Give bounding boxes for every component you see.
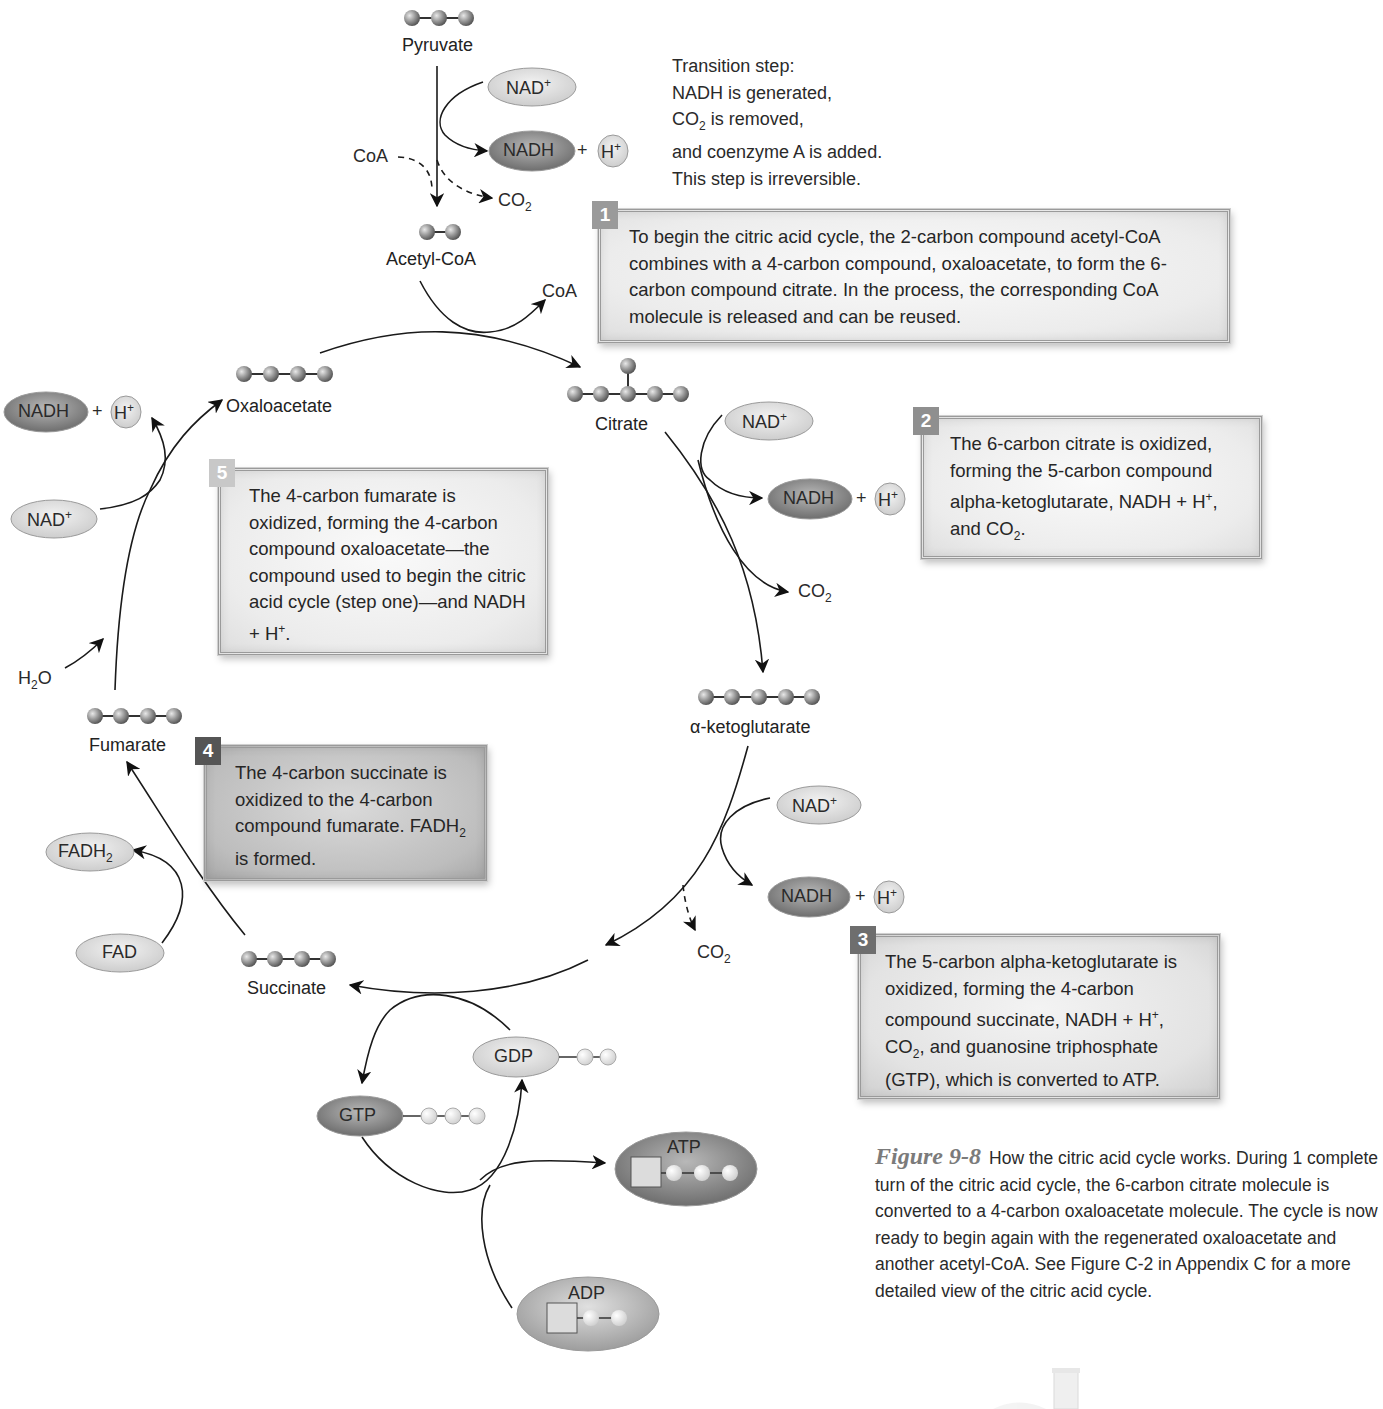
gdp-label: GDP — [494, 1046, 533, 1067]
alpha-ketoglutarate-label: α-ketoglutarate — [690, 717, 810, 738]
coa-released-label: CoA — [542, 281, 577, 302]
akg-molecule-icon — [698, 689, 820, 705]
arrow-co2-out-step2 — [698, 460, 788, 592]
acetylcoa-molecule-icon — [419, 224, 461, 240]
arrow-h2o-in — [65, 639, 103, 668]
fumarate-molecule-icon — [87, 708, 182, 724]
arrow-oxaloacetate-to-citrate — [320, 332, 580, 367]
step-4-box: The 4-carbon succinate is oxidized to th… — [204, 745, 487, 881]
gtp-phosphate-chain-icon — [403, 1108, 485, 1124]
oxaloacetate-label: Oxaloacetate — [226, 396, 332, 417]
h-plus-label-step3: H+ — [877, 886, 897, 909]
plus-sign: + — [856, 488, 867, 509]
arrow-to-atp — [480, 1161, 605, 1180]
citrate-label: Citrate — [595, 414, 648, 435]
step-1-box: To begin the citric acid cycle, the 2-ca… — [598, 209, 1230, 343]
step-3-box: The 5-carbon alpha-ketoglutarate is oxid… — [858, 934, 1220, 1099]
citrate-molecule-icon — [567, 358, 689, 402]
nadh-label-transition: NADH — [503, 140, 554, 161]
succinate-molecule-icon — [241, 951, 336, 967]
atp-label: ATP — [667, 1137, 701, 1158]
figure-caption: Figure 9-8How the citric acid cycle work… — [875, 1143, 1380, 1304]
plus-sign: + — [92, 401, 103, 422]
adp-label: ADP — [568, 1283, 605, 1304]
h2o-label: H2O — [18, 668, 52, 692]
gdp-phosphate-chain-icon — [559, 1049, 616, 1065]
transition-line-2: NADH is generated, — [672, 80, 882, 107]
h-plus-label-step2: H+ — [878, 488, 898, 511]
arrow-nad-to-nadh-step5 — [100, 418, 165, 509]
transition-line-5: This step is irreversible. — [672, 166, 882, 193]
fumarate-label: Fumarate — [89, 735, 166, 756]
lab-flask-decoration-icon — [993, 1368, 1080, 1409]
step-1-text: To begin the citric acid cycle, the 2-ca… — [629, 226, 1167, 327]
arrow-nad-to-nadh-transition — [440, 82, 487, 151]
arrow-coa-released — [420, 281, 545, 332]
nad-plus-label-transition: NAD+ — [506, 76, 551, 99]
arrow-akg-to-succinate-b — [350, 960, 588, 993]
h-plus-label-step5: H+ — [114, 401, 134, 424]
gtp-label: GTP — [339, 1105, 376, 1126]
arrow-co2-out-step3-dashed — [683, 885, 695, 930]
step-2-box: The 6-carbon citrate is oxidized, formin… — [921, 416, 1262, 559]
arrow-citrate-to-akg — [665, 432, 763, 672]
transition-line-4: and coenzyme A is added. — [672, 139, 882, 166]
h-plus-label-transition: H+ — [601, 140, 621, 163]
plus-sign: + — [855, 886, 866, 907]
step-5-badge: 5 — [209, 459, 235, 487]
nad-plus-label-step5: NAD+ — [27, 508, 72, 531]
co2-label-step3: CO2 — [697, 942, 731, 966]
coa-in-label: CoA — [353, 146, 388, 167]
step-1-badge: 1 — [592, 201, 618, 229]
figure-caption-text: How the citric acid cycle works. During … — [875, 1148, 1378, 1301]
step-2-badge: 2 — [913, 407, 939, 435]
arrow-coa-in-dashed — [398, 157, 432, 190]
oxaloacetate-molecule-icon — [236, 366, 333, 382]
co2-label-step2: CO2 — [798, 581, 832, 605]
arrow-gtp-to-gdp — [362, 1080, 522, 1193]
arrow-akg-to-succinate-a — [606, 746, 748, 945]
arrow-co2-out-dashed — [437, 160, 492, 198]
fad-label: FAD — [102, 942, 137, 963]
nadh-label-step5: NADH — [18, 401, 69, 422]
transition-line-3: CO2 is removed, — [672, 106, 882, 139]
arrow-fad-to-fadh2 — [133, 850, 182, 943]
pyruvate-label: Pyruvate — [402, 35, 473, 56]
figure-number: Figure 9-8 — [875, 1143, 981, 1169]
step-4-badge: 4 — [195, 737, 221, 765]
nad-plus-label-step2: NAD+ — [742, 410, 787, 433]
transition-line-1: Transition step: — [672, 53, 882, 80]
arrow-adp-in — [482, 1185, 512, 1308]
step-3-badge: 3 — [850, 926, 876, 954]
step-5-box: The 4-carbon fumarate is oxidized, formi… — [218, 468, 548, 655]
succinate-label: Succinate — [247, 978, 326, 999]
fadh2-label: FADH2 — [58, 841, 113, 865]
plus-sign: + — [577, 140, 588, 161]
transition-step-note: Transition step: NADH is generated, CO2 … — [672, 53, 882, 192]
nadh-label-step3: NADH — [781, 886, 832, 907]
co2-label-transition: CO2 — [498, 190, 532, 214]
nad-plus-label-step3: NAD+ — [792, 794, 837, 817]
pyruvate-molecule-icon — [404, 10, 474, 26]
acetyl-coa-label: Acetyl-CoA — [386, 249, 476, 270]
nadh-label-step2: NADH — [783, 488, 834, 509]
arrow-fumarate-to-oxaloacetate — [115, 400, 222, 690]
